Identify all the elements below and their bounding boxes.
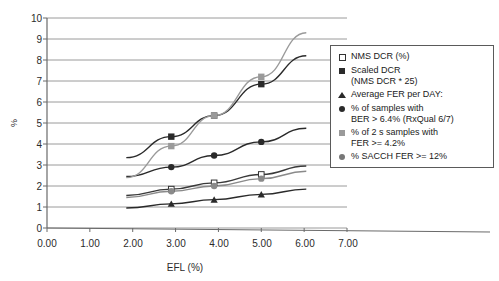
legend-item-label: NMS DCR (%): [351, 51, 410, 62]
circle-filled-icon: [336, 103, 348, 114]
legend-item-label: % of samples with BER > 6.4% (RxQual 6/7…: [351, 103, 454, 124]
legend-item: NMS DCR (%): [336, 51, 487, 62]
legend-item-label: % SACCH FER >= 12%: [351, 151, 447, 162]
legend-item-label: Average FER per DAY:: [351, 89, 443, 100]
legend-item: % SACCH FER >= 12%: [336, 151, 487, 162]
square-filled-icon: [336, 65, 348, 76]
circle-gray-icon: [336, 151, 348, 162]
legend-item-label: % of 2 s samples with FER >= 4.2%: [351, 127, 438, 148]
legend-item: Average FER per DAY:: [336, 89, 487, 100]
square-gray-icon: [336, 127, 348, 138]
square-open-icon: [336, 51, 348, 62]
legend-item-label: Scaled DCR (NMS DCR * 25): [351, 65, 418, 86]
legend-item: % of 2 s samples with FER >= 4.2%: [336, 127, 487, 148]
legend-item: Scaled DCR (NMS DCR * 25): [336, 65, 487, 86]
chart-legend: NMS DCR (%) Scaled DCR (NMS DCR * 25) Av…: [330, 45, 494, 168]
chart-container: % EFL (%) 10 9 8 7 6 5 4 3 2 1 0 0.00 1.…: [0, 0, 499, 281]
triangle-filled-icon: [336, 89, 348, 100]
legend-item: % of samples with BER > 6.4% (RxQual 6/7…: [336, 103, 487, 124]
